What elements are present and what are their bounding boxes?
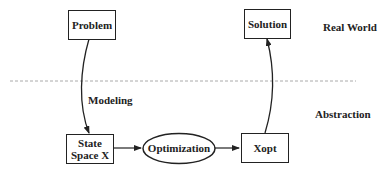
state-space-label-line2: Space X (71, 149, 109, 161)
xopt-label: Xopt (253, 142, 276, 154)
edge-xopt-to-solution (265, 39, 273, 133)
solution-node: Solution (244, 9, 291, 39)
state-space-label-line1: State (78, 137, 102, 149)
xopt-node: Xopt (241, 133, 289, 163)
modeling-label: Modeling (88, 94, 133, 106)
real-world-region-label: Real World (323, 21, 377, 33)
problem-node: Problem (68, 10, 116, 40)
optimization-label: Optimization (143, 142, 215, 154)
edge-problem-to-statespace (81, 39, 89, 133)
abstraction-region-label: Abstraction (315, 108, 371, 120)
state-space-node: State Space X (66, 134, 114, 164)
problem-label: Problem (72, 19, 112, 31)
solution-label: Solution (248, 18, 287, 30)
